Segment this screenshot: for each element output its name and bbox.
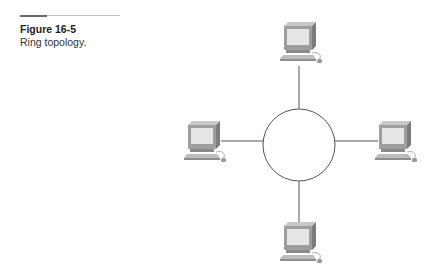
computer-icon xyxy=(280,222,322,263)
ring-topology-diagram xyxy=(0,0,436,270)
computer-icon xyxy=(184,121,226,162)
ring xyxy=(263,109,335,181)
computer-icon xyxy=(375,121,417,162)
computer-icon xyxy=(280,22,322,63)
